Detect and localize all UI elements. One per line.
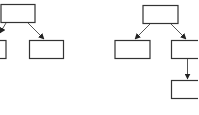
- right-tree-edge-right: [171, 24, 186, 39]
- left-tree-edge-right: [28, 23, 44, 39]
- left-tree-child-right-node: [30, 41, 64, 59]
- left-tree-edge-left: [0, 23, 6, 33]
- right-tree-edge-left: [135, 24, 150, 39]
- right-tree-child-right-node: [172, 41, 199, 59]
- right-tree-root-node: [143, 6, 178, 24]
- left-tree: [0, 5, 64, 59]
- right-tree: [115, 6, 198, 99]
- right-tree-child-left-node: [115, 41, 150, 59]
- left-tree-root-node: [1, 5, 35, 23]
- right-tree-grandchild-node: [172, 81, 199, 99]
- tree-diagrams: [0, 0, 198, 115]
- left-tree-child-left-node: [0, 41, 6, 59]
